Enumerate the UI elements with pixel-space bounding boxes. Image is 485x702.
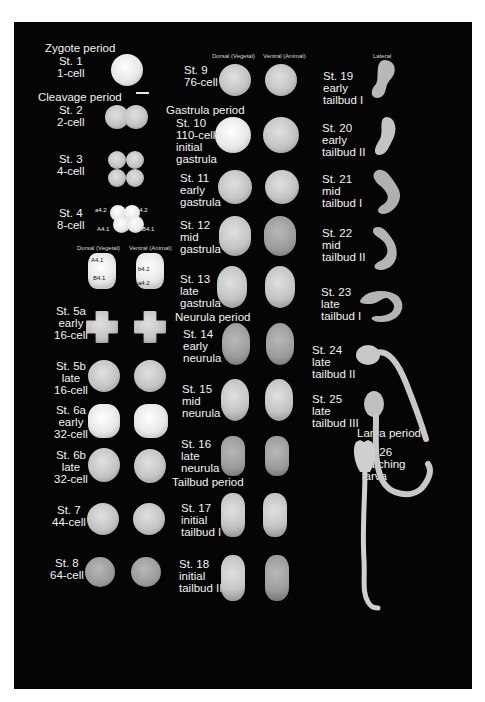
embryo-image-st1 [111,54,143,86]
stage-label-st20: St. 20 early tailbud II [322,122,365,158]
embryo-image-st13-ventral [265,266,295,308]
embryo-image-st16-dorsal [221,436,245,476]
cell-label-A4.1: A4.1 [91,257,103,264]
embryo-image-st9-ventral [265,64,297,96]
embryo-image-st8-dorsal [85,557,115,587]
stage-label-st23: St. 23 late tailbud I [321,286,361,322]
stage-label-st15: St. 15 mid neurula [182,383,220,419]
stage-label-st12: St. 12 mid gastrula [180,219,221,255]
cell-label-b4.2: b4.2 [136,207,148,214]
embryo-image-st21-lateral [372,168,404,216]
period-gastrula: Gastrula period [166,104,245,116]
embryo-image-st11-dorsal [218,170,252,204]
stage-label-st14: St. 14 early neurula [183,328,221,364]
embryo-image-st5b-ventral [134,360,166,392]
stage-label-st22: St. 22 mid tailbud II [322,227,365,263]
cell-label-a4.2: a4.2 [95,207,107,214]
cell-label-B4.1: B4.1 [93,275,105,282]
stage-label-st7: St. 7 44-cell [52,504,86,528]
stage-label-st13: St. 13 late gastrula [180,273,221,309]
stage-label-st19: St. 19 early tailbud I [323,70,363,106]
embryo-image-st14-dorsal [222,323,250,365]
embryo-image-st6b-dorsal [88,448,120,482]
embryo-image-st16-ventral [265,436,289,476]
embryo-image-st14-ventral [266,323,294,365]
stage-label-st8: St. 8 64-cell [50,557,84,581]
embryo-image-st22-lateral [370,224,404,272]
column-header-ventral-left: Ventral (Animal) [129,245,172,252]
stage-label-st4: St. 4 8-cell [57,207,84,231]
stage-label-st9: St. 9 76-cell [184,64,218,88]
embryo-image-st20-lateral [372,115,402,157]
embryo-image-st3-cell [108,169,126,187]
embryo-image-st5b-dorsal [88,360,120,392]
embryo-image-st13-dorsal [217,266,247,308]
embryo-image-st17-dorsal [221,493,245,537]
column-header-dorsal-left: Dorsal (Vegetal) [77,245,120,252]
period-neurula: Neurula period [175,311,250,323]
cell-label-b4.2: b4.2 [138,266,150,273]
stage-label-st1: St. 1 1-cell [57,55,84,79]
embryo-image-st9-dorsal [219,64,251,96]
embryo-image-st26-lateral [348,440,388,615]
embryo-image-st15-ventral [265,379,293,421]
stage-label-st18: St. 18 initial tailbud II [179,558,222,594]
stage-label-st11: St. 11 early gastrula [180,172,221,208]
embryo-image-st10-dorsal [215,117,251,153]
column-header-dorsal-mid: Dorsal (Vegetal) [212,53,255,60]
stage-label-st24: St. 24 late tailbud II [312,344,355,380]
embryo-image-st12-ventral [264,216,296,256]
embryo-image-st6a-ventral [134,404,168,438]
cell-label-A4.1: A4.1 [97,226,109,233]
embryo-image-st3-cell [108,151,126,169]
stage-label-st17: St. 17 initial tailbud I [181,502,221,538]
stage-label-st3: St. 3 4-cell [57,153,84,177]
embryo-image-st17-ventral [263,493,287,537]
embryo-image-st19-lateral [370,58,400,100]
embryo-image-st10-ventral [263,117,299,153]
cell-label-a4.2: a4.2 [138,280,150,287]
stage-label-st5b: St. 5b late 16-cell [54,360,88,396]
stage-label-st6b: St. 6b late 32-cell [54,449,88,485]
embryo-image-st7-ventral [133,503,165,535]
stage-label-st5a: St. 5a early 16-cell [54,305,88,341]
embryo-image-st18-ventral [265,555,289,601]
stage-label-st6a: St. 6a early 32-cell [54,404,88,440]
embryo-image-st15-dorsal [221,379,249,421]
embryo-image-st23-lateral [358,288,408,326]
embryo-image-st12-dorsal [219,216,251,256]
embryo-image-st6a-dorsal [88,404,120,438]
scale-bar [136,92,149,94]
stage-label-st16: St. 16 late neurula [181,438,219,474]
stage-label-st21: St. 21 mid tailbud I [322,173,362,209]
period-cleavage: Cleavage period [38,91,122,103]
embryo-image-st3-cell [126,169,144,187]
stage-label-st25: St. 25 late tailbud III [312,393,359,429]
embryo-image-st6b-ventral [134,449,166,483]
period-zygote: Zygote period [45,42,115,54]
column-header-ventral-mid: Ventral (Animal) [263,53,306,60]
embryo-image-st3-cell [126,151,144,169]
embryo-image-st18-dorsal [221,555,245,601]
stage-label-st2: St. 2 2-cell [57,104,84,128]
embryo-image-st8-ventral [131,557,161,587]
embryo-image-st2-cell-right [124,105,148,129]
embryo-image-st11-ventral [265,170,299,204]
cell-label-B4.1: B4.1 [142,226,154,233]
embryo-image-st7-dorsal [87,503,119,535]
stage-label-st10: St. 10 110-cell initial gastrula [176,117,217,165]
period-tailbud: Tailbud period [172,476,244,488]
